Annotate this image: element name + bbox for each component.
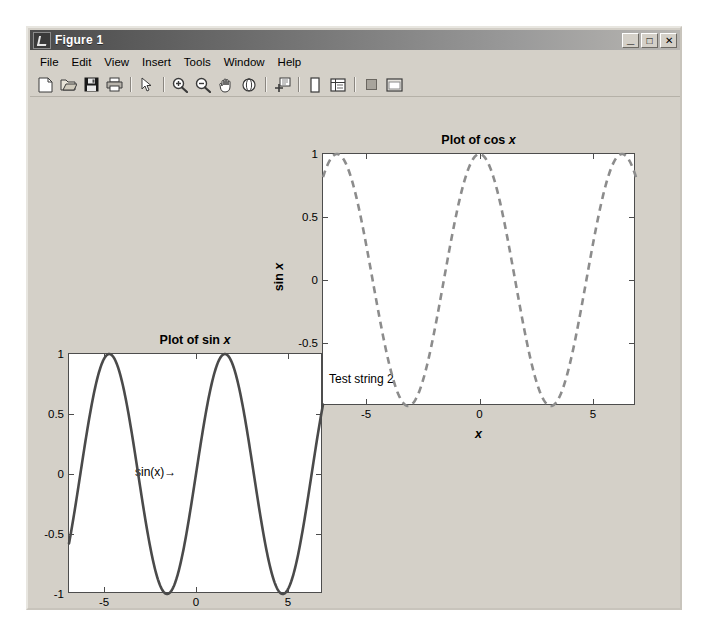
separator [354, 77, 356, 92]
window-title: Figure 1 [55, 33, 103, 47]
zoom-in-icon[interactable] [169, 74, 191, 95]
sin-title-text: Plot of sin [160, 333, 224, 347]
menu-edit[interactable]: Edit [66, 54, 99, 70]
hide-plot-tools-icon[interactable] [360, 74, 382, 95]
cos-plot-ylabel: sin x [272, 247, 286, 307]
figure-canvas: Plot of cos x 1 0.5 0 -0.5 -1 -5 0 5 [30, 98, 680, 608]
close-button[interactable]: ✕ [660, 33, 677, 48]
insert-colorbar-icon[interactable] [304, 74, 326, 95]
save-figure-icon[interactable] [80, 74, 102, 95]
cos-ytick-0: 0 [312, 274, 318, 286]
open-file-icon[interactable] [57, 74, 79, 95]
separator [130, 77, 132, 92]
menu-view[interactable]: View [98, 54, 136, 70]
sin-plot-title: Plot of sin x [69, 333, 321, 347]
insert-legend-icon[interactable] [327, 74, 349, 95]
cos-ylabel-variable: x [272, 263, 286, 270]
menu-window[interactable]: Window [218, 54, 272, 70]
separator [163, 77, 165, 92]
maximize-button[interactable]: □ [641, 33, 658, 48]
cos-ytick-0p5: 0.5 [302, 211, 318, 223]
menu-file[interactable]: File [34, 54, 66, 70]
menu-bar: File Edit View Insert Tools Window Help [30, 52, 680, 72]
screenshot-root: Figure 1 _ □ ✕ File Edit View Insert Too… [0, 0, 706, 640]
sin-ytick-m1: -1 [54, 588, 64, 600]
cos-xtick-0: 0 [476, 408, 482, 420]
sin-xtick-m5: -5 [99, 596, 109, 608]
sin-ytick-0: 0 [58, 468, 64, 480]
sin-ytick-m0p5: -0.5 [44, 528, 64, 540]
matlab-figure-icon [33, 32, 51, 49]
figure-window: Figure 1 _ □ ✕ File Edit View Insert Too… [26, 26, 682, 610]
cos-xtick-5: 5 [590, 408, 596, 420]
sin-ytick-1: 1 [58, 348, 64, 360]
sin-xtick-5: 5 [285, 596, 291, 608]
sin-curve [69, 354, 323, 594]
separator [298, 77, 300, 92]
sin-ytick-0p5: 0.5 [48, 408, 64, 420]
menu-tools[interactable]: Tools [178, 54, 218, 70]
sin-title-variable: x [223, 333, 230, 347]
cos-curve [323, 154, 636, 406]
new-figure-icon[interactable] [34, 74, 56, 95]
cos-plot-xlabel: x [323, 427, 634, 441]
pan-hand-icon[interactable] [215, 74, 237, 95]
edit-plot-pointer-icon[interactable] [136, 74, 158, 95]
cos-title-text: Plot of cos [441, 133, 508, 147]
data-cursor-icon[interactable] [271, 74, 293, 95]
cos-plot-axes[interactable]: Plot of cos x 1 0.5 0 -0.5 -1 -5 0 5 [322, 153, 635, 405]
tool-bar [30, 73, 680, 97]
menu-help[interactable]: Help [272, 54, 309, 70]
window-controls: _ □ ✕ [622, 33, 677, 48]
show-plot-tools-icon[interactable] [383, 74, 405, 95]
zoom-out-icon[interactable] [192, 74, 214, 95]
print-figure-icon[interactable] [103, 74, 125, 95]
menu-insert[interactable]: Insert [136, 54, 178, 70]
rotate-3d-icon[interactable] [238, 74, 260, 95]
separator [265, 77, 267, 92]
sin-plot-axes[interactable]: Plot of sin x 1 0.5 0 -0.5 -1 -5 0 5 [68, 353, 322, 593]
cos-ylabel-text: sin [272, 270, 286, 292]
sin-xtick-0: 0 [193, 596, 199, 608]
title-bar: Figure 1 _ □ ✕ [30, 30, 680, 50]
cos-plot-title: Plot of cos x [323, 133, 634, 147]
close-glyph: ✕ [661, 34, 676, 47]
minimize-glyph: _ [623, 34, 638, 47]
cos-title-variable: x [509, 133, 516, 147]
cos-xtick-m5: -5 [361, 408, 371, 420]
cos-ytick-1: 1 [312, 148, 318, 160]
minimize-button[interactable]: _ [622, 33, 639, 48]
maximize-glyph: □ [642, 34, 657, 47]
